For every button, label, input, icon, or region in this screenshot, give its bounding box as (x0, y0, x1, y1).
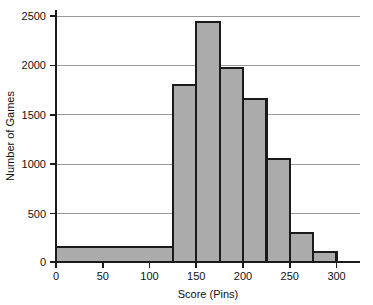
bar-150-175 (196, 22, 219, 262)
x-tick-label-0: 0 (53, 270, 59, 282)
x-tick-label-50: 50 (97, 270, 109, 282)
x-tick-label-200: 200 (234, 270, 252, 282)
bar-0-125 (56, 247, 173, 262)
y-tick-label-2500: 2500 (22, 10, 46, 22)
x-tick-label-250: 250 (281, 270, 299, 282)
bar-250-275 (290, 233, 313, 262)
y-tick-label-2000: 2000 (22, 59, 46, 71)
y-tick-label-1500: 1500 (22, 109, 46, 121)
y-tick-label-0: 0 (40, 256, 46, 268)
y-axis-title: Number of Games (4, 91, 16, 181)
bar-175-200 (220, 68, 243, 262)
histogram-figure: 0 500 1000 1500 2000 2500 0 50 100 150 2… (0, 0, 373, 305)
x-tick-label-300: 300 (327, 270, 345, 282)
bar-275-300 (313, 252, 336, 262)
bar-125-150 (173, 85, 196, 262)
y-tick-label-1000: 1000 (22, 158, 46, 170)
bar-200-225 (243, 99, 266, 262)
bar-225-250 (266, 159, 289, 262)
y-tick-label-500: 500 (28, 208, 46, 220)
x-tick-label-100: 100 (140, 270, 158, 282)
histogram-svg: 0 500 1000 1500 2000 2500 0 50 100 150 2… (0, 0, 373, 305)
x-axis-title: Score (Pins) (178, 288, 239, 300)
x-tick-label-150: 150 (187, 270, 205, 282)
